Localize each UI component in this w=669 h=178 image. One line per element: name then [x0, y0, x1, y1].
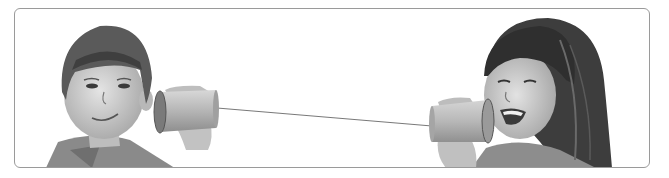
girl-figure [438, 18, 612, 170]
string [217, 108, 432, 126]
tin-can-telephone-illustration [0, 0, 669, 178]
boy-cup [154, 90, 219, 133]
girl-cup [429, 99, 494, 143]
